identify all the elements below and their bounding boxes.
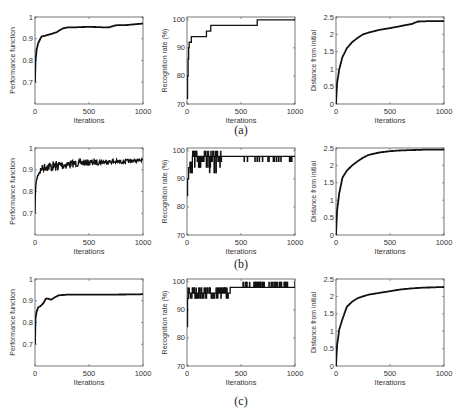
y-tick-label: 1 bbox=[29, 13, 33, 22]
data-series bbox=[35, 159, 143, 213]
y-tick-label: 2 bbox=[330, 292, 334, 301]
axes-box bbox=[336, 17, 444, 104]
y-axis-label: Distance from initial bbox=[310, 161, 317, 223]
data-series bbox=[336, 21, 444, 104]
chart-b1: 050010000.70.80.91IterationsPerformance … bbox=[9, 144, 151, 257]
data-series bbox=[187, 20, 295, 99]
y-tick-label: 0.9 bbox=[23, 34, 33, 43]
y-axis-label: Performance function bbox=[9, 289, 16, 356]
y-axis-label: Performance function bbox=[9, 158, 16, 225]
axes-box bbox=[187, 279, 295, 366]
caption-c: (c) bbox=[221, 394, 261, 409]
x-tick-label: 1000 bbox=[135, 369, 152, 378]
chart-a1: 050010000.70.80.91IterationsPerformance … bbox=[9, 13, 151, 126]
x-tick-label: 0 bbox=[185, 369, 189, 378]
y-tick-label: 2.5 bbox=[324, 144, 334, 153]
y-tick-label: 1 bbox=[29, 144, 33, 153]
x-axis-label: Iterations bbox=[226, 378, 257, 387]
y-tick-label: 0.8 bbox=[23, 318, 33, 327]
x-tick-label: 0 bbox=[334, 369, 338, 378]
x-tick-label: 1000 bbox=[287, 238, 304, 247]
data-series bbox=[35, 294, 143, 344]
y-tick-label: 0.9 bbox=[23, 296, 33, 305]
x-tick-label: 0 bbox=[185, 238, 189, 247]
x-tick-label: 0 bbox=[334, 107, 338, 116]
y-axis-label: Performance function bbox=[9, 27, 16, 94]
x-tick-label: 1000 bbox=[135, 107, 152, 116]
x-tick-label: 1000 bbox=[436, 107, 453, 116]
x-axis-label: Iterations bbox=[226, 247, 257, 256]
y-tick-label: 2.5 bbox=[324, 275, 334, 284]
y-tick-label: 0.7 bbox=[23, 209, 33, 218]
y-tick-label: 100 bbox=[172, 146, 185, 155]
y-tick-label: 80 bbox=[177, 202, 185, 211]
y-axis-label: Distance from initial bbox=[310, 292, 317, 354]
y-tick-label: 1.5 bbox=[324, 178, 334, 187]
x-axis-label: Iterations bbox=[74, 247, 105, 256]
y-tick-label: 2.5 bbox=[324, 13, 334, 22]
data-series bbox=[187, 282, 295, 327]
y-tick-label: 0.5 bbox=[324, 82, 334, 91]
x-tick-label: 500 bbox=[83, 107, 96, 116]
y-tick-label: 90 bbox=[177, 305, 185, 314]
x-tick-label: 0 bbox=[185, 107, 189, 116]
x-tick-label: 500 bbox=[83, 369, 96, 378]
x-tick-label: 500 bbox=[235, 238, 248, 247]
data-series bbox=[35, 24, 143, 83]
y-tick-label: 0.5 bbox=[324, 213, 334, 222]
chart-c2: 05001000708090100IterationsRecognition r… bbox=[161, 277, 303, 387]
y-tick-label: 70 bbox=[177, 231, 185, 240]
y-axis-label: Recognition rate (%) bbox=[161, 29, 169, 93]
chart-b3: 0500100000.511.522.5IterationsDistance f… bbox=[310, 144, 452, 257]
y-tick-label: 2 bbox=[330, 161, 334, 170]
x-tick-label: 0 bbox=[33, 238, 37, 247]
y-tick-label: 0.5 bbox=[324, 344, 334, 353]
axes-box bbox=[35, 17, 143, 104]
x-axis-label: Iterations bbox=[375, 116, 406, 125]
x-tick-label: 500 bbox=[235, 107, 248, 116]
caption-b: (b) bbox=[221, 257, 261, 272]
plots-canvas: 050010000.70.80.91IterationsPerformance … bbox=[0, 0, 466, 416]
figure-grid: 050010000.70.80.91IterationsPerformance … bbox=[0, 0, 466, 416]
y-tick-label: 90 bbox=[177, 43, 185, 52]
data-series bbox=[187, 151, 295, 196]
y-tick-label: 1.5 bbox=[324, 47, 334, 56]
y-tick-label: 70 bbox=[177, 362, 185, 371]
y-tick-label: 90 bbox=[177, 174, 185, 183]
chart-b2: 05001000708090100IterationsRecognition r… bbox=[161, 146, 303, 256]
y-tick-label: 2 bbox=[330, 30, 334, 39]
y-tick-label: 0.7 bbox=[23, 340, 33, 349]
y-tick-label: 0.9 bbox=[23, 165, 33, 174]
chart-c3: 0500100000.511.522.5IterationsDistance f… bbox=[310, 275, 452, 388]
x-tick-label: 1000 bbox=[287, 369, 304, 378]
axes-box bbox=[187, 17, 295, 104]
x-tick-label: 1000 bbox=[436, 238, 453, 247]
chart-a3: 0500100000.511.522.5IterationsDistance f… bbox=[310, 13, 452, 126]
y-tick-label: 0.7 bbox=[23, 78, 33, 87]
y-tick-label: 1 bbox=[330, 196, 334, 205]
y-axis-label: Recognition rate (%) bbox=[161, 160, 169, 224]
x-axis-label: Iterations bbox=[375, 378, 406, 387]
y-tick-label: 80 bbox=[177, 71, 185, 80]
y-axis-label: Recognition rate (%) bbox=[161, 291, 169, 355]
x-tick-label: 500 bbox=[83, 238, 96, 247]
x-axis-label: Iterations bbox=[375, 247, 406, 256]
chart-c1: 050010000.70.80.91IterationsPerformance … bbox=[9, 275, 151, 388]
y-tick-label: 1 bbox=[29, 275, 33, 284]
y-tick-label: 0 bbox=[330, 100, 334, 109]
y-tick-label: 1.5 bbox=[324, 309, 334, 318]
data-series bbox=[336, 287, 444, 366]
data-series bbox=[336, 150, 444, 235]
y-axis-label: Distance from initial bbox=[310, 30, 317, 92]
y-tick-label: 70 bbox=[177, 100, 185, 109]
axes-box bbox=[336, 148, 444, 235]
x-axis-label: Iterations bbox=[74, 116, 105, 125]
x-tick-label: 1000 bbox=[436, 369, 453, 378]
x-axis-label: Iterations bbox=[74, 378, 105, 387]
y-tick-label: 0 bbox=[330, 362, 334, 371]
caption-a: (a) bbox=[221, 123, 261, 138]
x-tick-label: 1000 bbox=[287, 107, 304, 116]
y-tick-label: 0.8 bbox=[23, 56, 33, 65]
x-tick-label: 0 bbox=[33, 107, 37, 116]
x-tick-label: 500 bbox=[235, 369, 248, 378]
